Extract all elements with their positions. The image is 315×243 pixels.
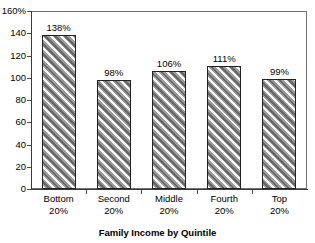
category-line-1: Middle [155, 193, 183, 204]
y-axis-tick-label: 100 [10, 73, 26, 83]
bar-value-label: 111% [194, 54, 254, 64]
y-axis-tick-label: 80 [15, 95, 26, 105]
y-axis-tick-label: 160% [2, 6, 26, 16]
category-line-1: Bottom [44, 193, 74, 204]
y-axis-tick-label: 20 [15, 162, 26, 172]
bar[interactable] [152, 71, 186, 189]
y-axis-tick-label: 40 [15, 140, 26, 150]
bar[interactable] [262, 79, 296, 189]
y-axis-tick-label: 60 [15, 118, 26, 128]
bar[interactable] [42, 35, 76, 189]
bar-value-label: 138% [29, 23, 89, 33]
bar-value-label: 99% [249, 67, 309, 77]
y-axis-tick-label: 120 [10, 51, 26, 61]
bar-chart: 020406080100120140160% 138%98%106%111%99… [0, 0, 315, 243]
bar[interactable] [207, 66, 241, 189]
y-axis-tick [27, 189, 31, 190]
bar-value-label: 106% [139, 59, 199, 69]
x-axis-line [31, 189, 308, 190]
x-axis-category-labels: Bottom20%Second20%Middle20%Fourth20%Top2… [31, 193, 307, 223]
bar-series [31, 11, 307, 189]
y-axis-tick-label: 140 [10, 29, 26, 39]
bar[interactable] [97, 80, 131, 189]
category-line-2: 20% [245, 205, 313, 217]
x-axis-category-label: Top20% [245, 193, 313, 216]
bar-value-label: 98% [84, 68, 144, 78]
category-line-1: Fourth [210, 193, 237, 204]
category-line-1: Top [272, 193, 287, 204]
category-line-1: Second [98, 193, 130, 204]
x-axis-title: Family Income by Quintile [0, 227, 315, 238]
chart-title-remnant [0, 0, 315, 6]
